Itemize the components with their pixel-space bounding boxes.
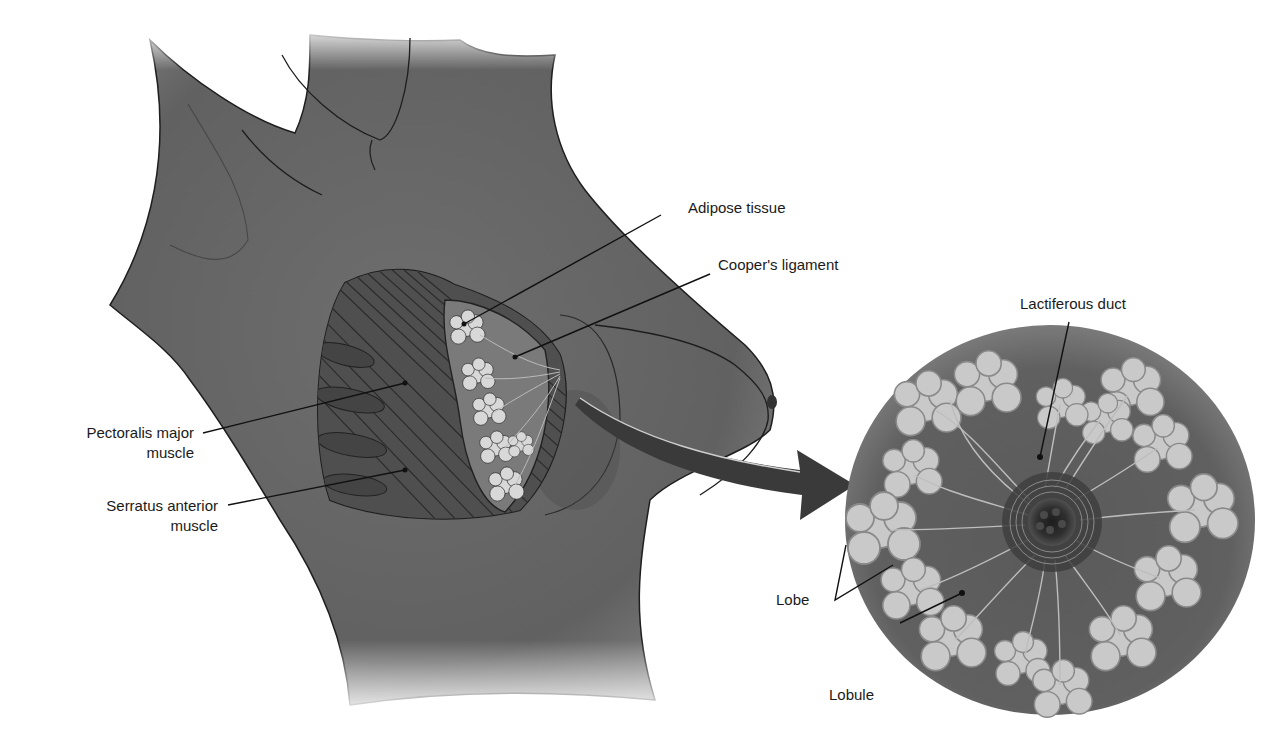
label-serratus-anterior: Serratus anterior muscle	[20, 496, 218, 536]
label-pectoralis-line1: Pectoralis major	[20, 423, 194, 443]
magnified-breast-disc	[845, 325, 1255, 717]
label-coopers-ligament: Cooper's ligament	[718, 255, 838, 275]
label-lactiferous-duct: Lactiferous duct	[1020, 294, 1126, 314]
label-serratus-line1: Serratus anterior	[20, 496, 218, 516]
label-lobe: Lobe	[776, 590, 809, 610]
label-lobule: Lobule	[829, 685, 874, 705]
label-serratus-line2: muscle	[20, 516, 218, 536]
breast-anatomy-diagram	[0, 0, 1282, 752]
label-pectoralis-line2: muscle	[20, 443, 194, 463]
label-pectoralis-major: Pectoralis major muscle	[20, 423, 194, 463]
label-adipose-tissue: Adipose tissue	[688, 198, 786, 218]
